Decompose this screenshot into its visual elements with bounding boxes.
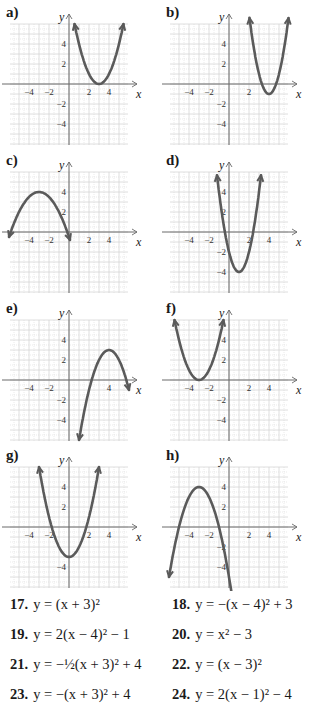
x-axis-label: x <box>295 87 302 101</box>
y-axis-label: y <box>218 158 225 172</box>
y-tick-label: 2 <box>62 355 67 365</box>
x-tick-label: −4 <box>24 530 34 540</box>
graph-plot: xy−4−22442−2−4 <box>160 443 319 591</box>
y-tick-label: 4 <box>222 335 227 345</box>
x-tick-label: 4 <box>107 87 112 97</box>
axes: xy−4−22442−2−4 <box>162 306 302 441</box>
x-tick-label: −4 <box>184 383 194 393</box>
axes: xy−4−2242−2−4 <box>162 10 302 145</box>
x-tick-label: 4 <box>107 235 112 245</box>
y-tick-label: 2 <box>222 502 227 512</box>
y-tick-label: 2 <box>222 355 227 365</box>
graph-plot: xy−4−2442−2−4 <box>0 296 159 444</box>
x-axis-label: x <box>295 383 302 397</box>
x-tick-label: −2 <box>204 235 214 245</box>
equation-17: 17.y = (x + 3)² <box>10 596 100 613</box>
graph-b: b) xy−4−2242−2−4 <box>160 0 319 148</box>
axes: xy−4−22442−2−4 <box>162 158 302 293</box>
x-tick-label: 2 <box>247 383 252 393</box>
x-tick-label: −4 <box>24 383 34 393</box>
y-tick-label: 4 <box>62 39 67 49</box>
equation-20: 20.y = x² − 3 <box>172 626 252 643</box>
x-tick-label: −2 <box>204 87 214 97</box>
equation-18: 18.y = −(x − 4)² + 3 <box>172 596 293 613</box>
graph-plot: xy−4−2242−2−4 <box>160 0 319 148</box>
x-tick-label: −4 <box>184 87 194 97</box>
y-tick-label: −2 <box>56 99 66 109</box>
y-tick-label: 4 <box>222 187 227 197</box>
equation-row: 23.y = −(x + 3)² + 4 24.y = 2(x − 1)² − … <box>0 686 319 714</box>
graph-a: a) xy−4−22442−2−4 <box>0 0 159 148</box>
x-tick-label: −4 <box>184 530 194 540</box>
x-tick-label: 4 <box>267 383 272 393</box>
y-tick-label: −4 <box>216 415 226 425</box>
y-tick-label: 2 <box>222 59 227 69</box>
equation-22: 22.y = (x − 3)² <box>172 656 262 673</box>
y-tick-label: −2 <box>216 395 226 405</box>
x-axis-label: x <box>135 235 142 249</box>
y-tick-label: 2 <box>62 59 67 69</box>
x-tick-label: −4 <box>184 235 194 245</box>
y-tick-label: −2 <box>216 247 226 257</box>
x-axis-label: x <box>135 383 142 397</box>
x-tick-label: −2 <box>204 383 214 393</box>
x-tick-label: 4 <box>267 530 272 540</box>
equation-24: 24.y = 2(x − 1)² − 4 <box>172 686 292 703</box>
y-tick-label: 2 <box>62 207 67 217</box>
equation-row: 19.y = 2(x − 4)² − 1 20.y = x² − 3 <box>0 626 319 654</box>
y-tick-label: −4 <box>56 415 66 425</box>
axes: xy−4−22442 <box>2 158 142 293</box>
graph-h: h) xy−4−22442−2−4 <box>160 443 319 591</box>
x-axis-label: x <box>135 530 142 544</box>
x-tick-label: −4 <box>24 87 34 97</box>
y-axis-label: y <box>58 306 65 320</box>
x-tick-label: 4 <box>267 235 272 245</box>
graph-e: e) xy−4−2442−2−4 <box>0 296 159 444</box>
y-axis-label: y <box>218 10 225 24</box>
y-tick-label: −4 <box>216 267 226 277</box>
y-tick-label: −2 <box>56 395 66 405</box>
graph-d: d) xy−4−22442−2−4 <box>160 148 319 296</box>
x-tick-label: 2 <box>247 530 252 540</box>
y-tick-label: 4 <box>222 482 227 492</box>
x-axis-label: x <box>135 87 142 101</box>
y-axis-label: y <box>58 158 65 172</box>
graph-plot: xy−4−22442−4 <box>0 443 159 591</box>
equation-row: 17.y = (x + 3)² 18.y = −(x − 4)² + 3 <box>0 596 319 624</box>
y-tick-label: −4 <box>56 119 66 129</box>
y-axis-label: y <box>58 10 65 24</box>
x-tick-label: 2 <box>87 87 92 97</box>
x-tick-label: −2 <box>44 235 54 245</box>
x-tick-label: −4 <box>24 235 34 245</box>
x-tick-label: 2 <box>247 87 252 97</box>
graph-plot: xy−4−22442 <box>0 148 159 296</box>
y-tick-label: 4 <box>62 482 67 492</box>
equation-19: 19.y = 2(x − 4)² − 1 <box>10 626 130 643</box>
x-tick-label: −2 <box>44 87 54 97</box>
parabola-curve <box>9 192 70 240</box>
y-tick-label: −2 <box>216 99 226 109</box>
y-tick-label: −4 <box>216 562 226 572</box>
y-tick-label: 4 <box>62 335 67 345</box>
equation-23: 23.y = −(x + 3)² + 4 <box>10 686 131 703</box>
axes: xy−4−2442−2−4 <box>2 306 142 441</box>
y-tick-label: 4 <box>62 187 67 197</box>
y-axis-label: y <box>58 453 65 467</box>
graph-plot: xy−4−22442−2−4 <box>160 296 319 444</box>
y-tick-label: −4 <box>216 119 226 129</box>
graph-g: g) xy−4−22442−4 <box>0 443 159 591</box>
equation-row: 21.y = −½(x + 3)² + 4 22.y = (x − 3)² <box>0 656 319 684</box>
y-tick-label: 4 <box>222 39 227 49</box>
y-axis-label: y <box>218 453 225 467</box>
equation-21: 21.y = −½(x + 3)² + 4 <box>10 656 141 673</box>
graph-f: f) xy−4−22442−2−4 <box>160 296 319 444</box>
graph-plot: xy−4−22442−2−4 <box>0 0 159 148</box>
graph-c: c) xy−4−22442 <box>0 148 159 296</box>
axes: xy−4−22442−2−4 <box>162 453 302 588</box>
x-tick-label: 2 <box>87 235 92 245</box>
x-tick-label: −2 <box>44 383 54 393</box>
y-tick-label: −4 <box>56 562 66 572</box>
x-tick-label: 4 <box>107 383 112 393</box>
y-tick-label: 2 <box>62 502 67 512</box>
x-axis-label: x <box>295 235 302 249</box>
